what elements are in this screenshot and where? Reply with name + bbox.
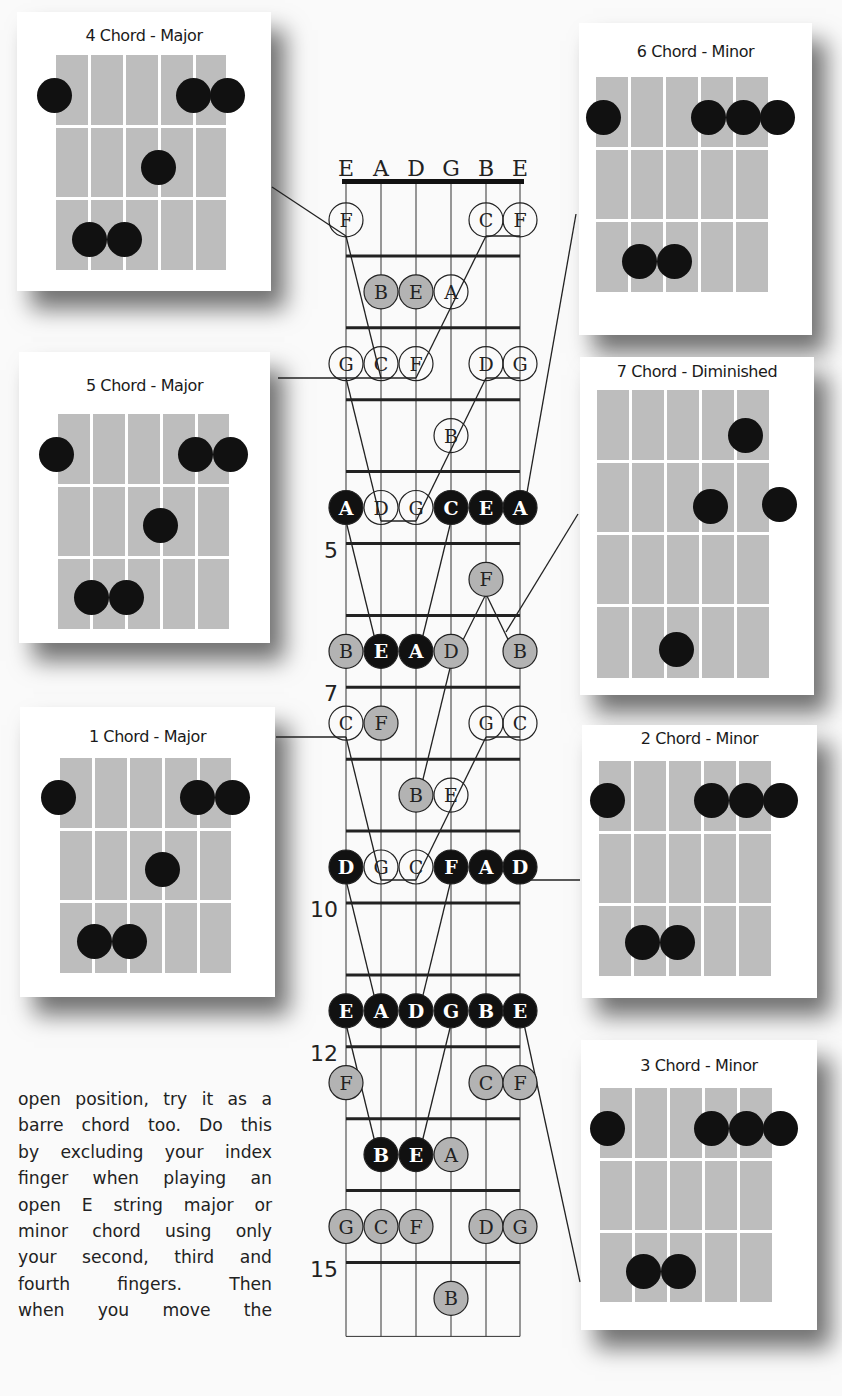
svg-text:G: G (478, 712, 493, 734)
svg-text:B: B (374, 281, 388, 303)
svg-text:D: D (373, 497, 388, 519)
note-marker-D: D (329, 850, 363, 884)
svg-text:G: G (338, 353, 353, 375)
fret-number: 7 (324, 681, 338, 706)
note-marker-D: D (503, 850, 537, 884)
svg-text:A: A (512, 497, 528, 519)
text-line: finger when playing an (18, 1165, 272, 1191)
note-marker-A: A (503, 491, 537, 525)
svg-text:A: A (443, 281, 458, 303)
string-labels: EADGBE (338, 156, 528, 184)
note-marker-B: B (503, 634, 537, 668)
note-marker-A: A (469, 850, 503, 884)
note-marker-B: B (364, 275, 398, 309)
note-marker-F: F (469, 562, 503, 596)
svg-text:C: C (374, 1216, 389, 1238)
svg-text:C: C (513, 712, 528, 734)
svg-text:F: F (479, 568, 492, 590)
text-line: by excluding your index (18, 1139, 272, 1165)
body-paragraph: open position, try it as a barre chord t… (18, 1086, 272, 1324)
note-marker-E: E (399, 1138, 433, 1172)
text-line: open E string major or (18, 1192, 272, 1218)
svg-text:D: D (478, 1216, 493, 1238)
string-label: E (338, 156, 354, 181)
note-marker-F: F (399, 1210, 433, 1244)
svg-text:D: D (478, 353, 493, 375)
svg-text:B: B (444, 1287, 458, 1309)
fret-number: 15 (310, 1257, 338, 1282)
page: 4 Chord - Major 5 Chord - Major 1 Chord … (0, 0, 842, 1396)
svg-text:C: C (409, 856, 424, 878)
fret-number: 10 (310, 897, 338, 922)
svg-text:B: B (478, 1000, 494, 1022)
svg-text:A: A (443, 1144, 458, 1166)
svg-text:C: C (479, 209, 494, 231)
svg-text:E: E (513, 1000, 527, 1022)
note-marker-B: B (469, 994, 503, 1028)
svg-text:B: B (339, 640, 353, 662)
svg-text:F: F (339, 209, 352, 231)
note-marker-E: E (469, 491, 503, 525)
note-marker-C: C (364, 1210, 398, 1244)
string-label: D (407, 156, 425, 181)
text-line: open position, try it as a (18, 1086, 272, 1112)
note-marker-G: G (329, 1210, 363, 1244)
svg-text:C: C (443, 497, 458, 519)
note-marker-E: E (399, 275, 433, 309)
nut (342, 179, 524, 184)
note-marker-B: B (434, 1281, 468, 1315)
string-label: B (478, 156, 494, 181)
svg-text:F: F (409, 1216, 422, 1238)
svg-text:E: E (479, 497, 493, 519)
svg-text:F: F (513, 209, 526, 231)
fret-number: 5 (324, 538, 338, 563)
svg-text:E: E (374, 640, 388, 662)
svg-text:G: G (443, 1000, 459, 1022)
svg-text:E: E (444, 784, 458, 806)
note-marker-F: F (434, 850, 468, 884)
note-marker-D: D (399, 994, 433, 1028)
text-line: your second, third and (18, 1244, 272, 1270)
note-marker-A: A (399, 634, 433, 668)
note-marker-F: F (503, 1066, 537, 1100)
svg-text:B: B (373, 1144, 389, 1166)
text-line: minor chord using only (18, 1218, 272, 1244)
svg-text:E: E (409, 281, 423, 303)
note-marker-E: E (503, 994, 537, 1028)
note-marker-A: A (434, 1138, 468, 1172)
svg-text:C: C (479, 1072, 494, 1094)
note-marker-G: G (503, 1210, 537, 1244)
svg-text:G: G (512, 1216, 527, 1238)
note-marker-B: B (364, 1138, 398, 1172)
svg-text:D: D (338, 856, 354, 878)
svg-text:G: G (373, 856, 388, 878)
text-line: barre chord too. Do this (18, 1112, 272, 1138)
note-marker-B: B (399, 778, 433, 812)
svg-text:F: F (444, 856, 458, 878)
svg-text:C: C (374, 353, 389, 375)
svg-text:F: F (374, 712, 387, 734)
svg-text:G: G (512, 353, 527, 375)
svg-text:A: A (338, 497, 354, 519)
string-label: E (512, 156, 528, 181)
fret-number: 12 (310, 1041, 338, 1066)
note-marker-F: F (364, 706, 398, 740)
note-marker-C: C (434, 491, 468, 525)
svg-text:D: D (408, 1000, 424, 1022)
svg-text:A: A (408, 640, 424, 662)
text-line: fourth fingers. Then (18, 1271, 272, 1297)
svg-text:F: F (513, 1072, 526, 1094)
svg-text:E: E (409, 1144, 423, 1166)
svg-text:F: F (339, 1072, 352, 1094)
svg-text:G: G (408, 497, 423, 519)
note-marker-A: A (329, 491, 363, 525)
svg-text:F: F (409, 353, 422, 375)
svg-text:A: A (478, 856, 494, 878)
string-label: G (442, 156, 460, 181)
note-marker-G: G (434, 994, 468, 1028)
note-marker-B: B (329, 634, 363, 668)
svg-text:D: D (512, 856, 528, 878)
svg-text:E: E (339, 1000, 353, 1022)
svg-text:C: C (339, 712, 354, 734)
note-marker-C: C (469, 1066, 503, 1100)
